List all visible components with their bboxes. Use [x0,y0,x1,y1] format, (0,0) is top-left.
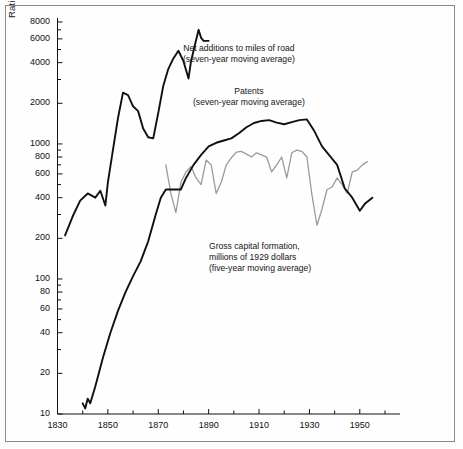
x-tick-label: 1850 [88,421,128,430]
annotation-gcf-line3: (five-year moving average) [209,263,311,274]
y-tick-label: 8000 [8,17,50,26]
y-tick-label: 400 [8,193,50,202]
y-tick-label: 6000 [8,34,50,43]
y-tick-label: 60 [8,304,50,313]
y-tick-label: 200 [8,233,50,242]
annotation-road-line2: (seven-year moving average) [183,54,295,65]
y-tick-label: 80 [8,287,50,296]
y-tick-label: 20 [8,368,50,377]
y-tick-label: 1000 [8,139,50,148]
annotation-gcf-line1: Gross capital formation, [209,241,311,252]
annotation-gcf: Gross capital formation, millions of 192… [209,241,311,274]
chart-plot-area [0,0,463,449]
y-tick-label: 100 [8,274,50,283]
y-tick-label: 2000 [8,98,50,107]
annotation-road-line1: Net additions to miles of road [183,43,295,54]
x-tick-label: 1950 [340,421,380,430]
x-tick-label: 1910 [239,421,279,430]
annotation-gcf-line2: millions of 1929 dollars [209,252,311,263]
x-tick-label: 1830 [38,421,78,430]
annotation-patents-line2: (seven-year moving average) [193,97,305,108]
chart-page: Ratio Scale 1020406080100200400600800100… [0,0,463,449]
annotation-patents-line1: Patents [193,86,305,97]
annotation-patents: Patents (seven-year moving average) [193,86,305,108]
y-tick-label: 4000 [8,58,50,67]
y-tick-label: 10 [8,409,50,418]
x-tick-label: 1870 [138,421,178,430]
y-tick-label: 600 [8,169,50,178]
y-tick-label: 40 [8,328,50,337]
x-tick-label: 1930 [289,421,329,430]
x-tick-label: 1890 [189,421,229,430]
annotation-road: Net additions to miles of road (seven-ye… [183,43,295,65]
y-tick-label: 800 [8,152,50,161]
